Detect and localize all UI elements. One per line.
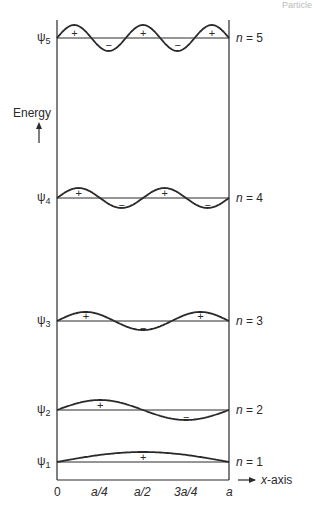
sign-label: + [140,27,146,39]
quantum-number-label-5: n = 5 [236,32,263,44]
sign-label: − [174,39,180,51]
x-tick-label: a [226,486,233,498]
sign-label: + [97,399,103,411]
sign-label: + [162,187,168,199]
sign-label: − [119,199,125,211]
psi-label-5: ψ5 [37,31,51,47]
x-tick-label: a/2 [134,486,151,498]
psi-label-3: ψ3 [37,314,51,330]
sign-label: + [71,27,77,39]
particle-in-box-diagram [0,0,314,515]
sign-label: − [205,199,211,211]
psi-label-4: ψ4 [37,191,51,207]
sign-label: − [183,411,189,423]
quantum-number-label-2: n = 2 [236,404,263,416]
sign-label: + [140,451,146,463]
quantum-number-label-1: n = 1 [236,456,263,468]
x-tick-label: 3a/4 [174,486,197,498]
sign-label: + [83,310,89,322]
quantum-number-label-3: n = 3 [236,315,263,327]
x-tick-label: 0 [54,486,61,498]
psi-label-2: ψ2 [37,403,51,419]
energy-label: Energy [13,107,51,119]
sign-label: − [140,322,146,334]
x-axis-label: x-axis [261,474,292,486]
sign-label: + [76,187,82,199]
sign-label: + [197,310,203,322]
sign-label: + [209,27,215,39]
sign-label: − [106,39,112,51]
psi-label-1: ψ1 [37,455,51,471]
x-tick-label: a/4 [91,486,108,498]
quantum-number-label-4: n = 4 [236,192,263,204]
